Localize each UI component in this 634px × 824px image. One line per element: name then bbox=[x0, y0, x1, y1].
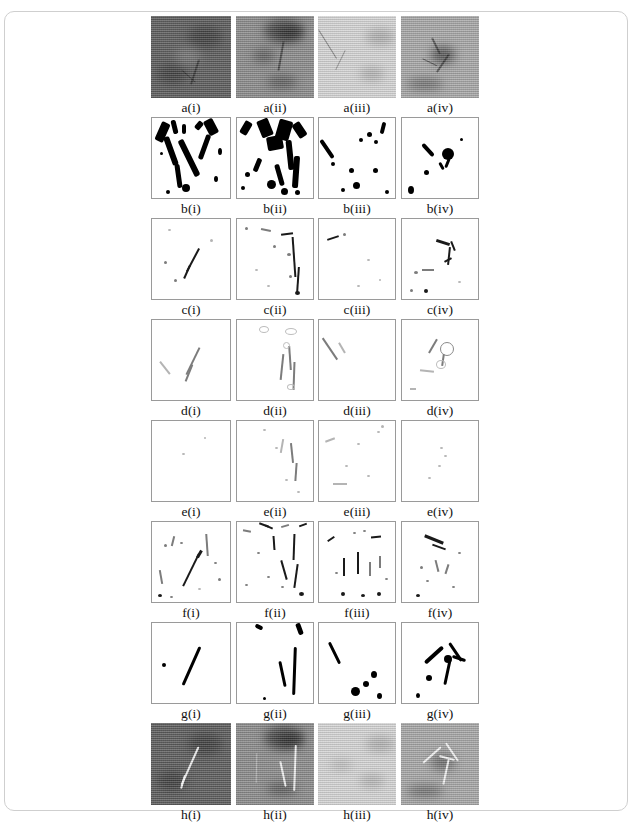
panel-label-d-i: d(i) bbox=[151, 401, 231, 420]
row-g-labels: g(i) g(ii) g(iii) g(iv) bbox=[151, 704, 479, 723]
figure-row-b: b(i) b(ii) b(iii) b(iv) bbox=[151, 117, 479, 218]
panel-label-e-iii: e(iii) bbox=[318, 502, 396, 521]
panel-label-g-ii: g(ii) bbox=[236, 704, 314, 723]
figure-row-g: g(i) g(ii) g(iii) g(iv) bbox=[151, 622, 479, 723]
panel-f-i[interactable] bbox=[151, 521, 231, 603]
panel-f-iii[interactable] bbox=[318, 521, 396, 603]
panel-label-f-iii: f(iii) bbox=[318, 603, 396, 622]
panel-label-e-iv: e(iv) bbox=[401, 502, 479, 521]
panel-g-i[interactable] bbox=[151, 622, 231, 704]
panel-label-f-ii: f(ii) bbox=[236, 603, 314, 622]
panel-f-iv[interactable] bbox=[401, 521, 479, 603]
panel-d-ii[interactable] bbox=[236, 319, 314, 401]
figure-panel-grid: a(i) a(ii) a(iii) a(iv) bbox=[151, 16, 479, 824]
panel-label-h-iv: h(iv) bbox=[401, 805, 479, 824]
panel-g-iv[interactable] bbox=[401, 622, 479, 704]
panel-label-d-iii: d(iii) bbox=[318, 401, 396, 420]
panel-f-ii[interactable] bbox=[236, 521, 314, 603]
row-h-labels: h(i) h(ii) h(iii) h(iv) bbox=[151, 805, 479, 824]
figure-row-h: h(i) h(ii) h(iii) h(iv) bbox=[151, 723, 479, 824]
panel-label-g-iii: g(iii) bbox=[318, 704, 396, 723]
panel-c-ii[interactable] bbox=[236, 218, 314, 300]
panel-g-ii[interactable] bbox=[236, 622, 314, 704]
panel-label-c-i: c(i) bbox=[151, 300, 231, 319]
panel-label-h-iii: h(iii) bbox=[318, 805, 396, 824]
panel-label-d-ii: d(ii) bbox=[236, 401, 314, 420]
row-c-images bbox=[151, 218, 479, 300]
figure-row-e: e(i) e(ii) e(iii) e(iv) bbox=[151, 420, 479, 521]
panel-d-iv[interactable] bbox=[401, 319, 479, 401]
figure-row-a: a(i) a(ii) a(iii) a(iv) bbox=[151, 16, 479, 117]
panel-b-iv[interactable] bbox=[401, 117, 479, 199]
panel-e-iii[interactable] bbox=[318, 420, 396, 502]
panel-label-f-i: f(i) bbox=[151, 603, 231, 622]
row-f-images bbox=[151, 521, 479, 603]
figure-row-c: c(i) c(ii) c(iii) c(iv) bbox=[151, 218, 479, 319]
row-a-labels: a(i) a(ii) a(iii) a(iv) bbox=[151, 98, 479, 117]
panel-a-iii[interactable] bbox=[318, 16, 396, 98]
panel-h-iii[interactable] bbox=[318, 723, 396, 805]
panel-c-iv[interactable] bbox=[401, 218, 479, 300]
panel-label-g-iv: g(iv) bbox=[401, 704, 479, 723]
row-b-images bbox=[151, 117, 479, 199]
row-e-images bbox=[151, 420, 479, 502]
panel-c-iii[interactable] bbox=[318, 218, 396, 300]
panel-b-iii[interactable] bbox=[318, 117, 396, 199]
panel-d-i[interactable] bbox=[151, 319, 231, 401]
panel-h-ii[interactable] bbox=[236, 723, 314, 805]
figure-row-d: d(i) d(ii) d(iii) d(iv) bbox=[151, 319, 479, 420]
row-d-labels: d(i) d(ii) d(iii) d(iv) bbox=[151, 401, 479, 420]
panel-label-f-iv: f(iv) bbox=[401, 603, 479, 622]
panel-a-iv[interactable] bbox=[401, 16, 479, 98]
row-f-labels: f(i) f(ii) f(iii) f(iv) bbox=[151, 603, 479, 622]
row-c-labels: c(i) c(ii) c(iii) c(iv) bbox=[151, 300, 479, 319]
panel-e-iv[interactable] bbox=[401, 420, 479, 502]
panel-label-g-i: g(i) bbox=[151, 704, 231, 723]
panel-c-i[interactable] bbox=[151, 218, 231, 300]
panel-label-b-ii: b(ii) bbox=[236, 199, 314, 218]
row-g-images bbox=[151, 622, 479, 704]
panel-label-c-iv: c(iv) bbox=[401, 300, 479, 319]
panel-label-a-i: a(i) bbox=[151, 98, 231, 117]
panel-e-ii[interactable] bbox=[236, 420, 314, 502]
row-e-labels: e(i) e(ii) e(iii) e(iv) bbox=[151, 502, 479, 521]
panel-label-a-ii: a(ii) bbox=[236, 98, 314, 117]
panel-b-i[interactable] bbox=[151, 117, 231, 199]
panel-a-ii[interactable] bbox=[236, 16, 314, 98]
panel-label-a-iii: a(iii) bbox=[318, 98, 396, 117]
panel-label-c-iii: c(iii) bbox=[318, 300, 396, 319]
figure-row-f: f(i) f(ii) f(iii) f(iv) bbox=[151, 521, 479, 622]
panel-label-b-iv: b(iv) bbox=[401, 199, 479, 218]
row-h-images bbox=[151, 723, 479, 805]
panel-h-iv[interactable] bbox=[401, 723, 479, 805]
row-d-images bbox=[151, 319, 479, 401]
panel-label-e-ii: e(ii) bbox=[236, 502, 314, 521]
panel-a-i[interactable] bbox=[151, 16, 231, 98]
panel-h-i[interactable] bbox=[151, 723, 231, 805]
row-b-labels: b(i) b(ii) b(iii) b(iv) bbox=[151, 199, 479, 218]
panel-label-b-iii: b(iii) bbox=[318, 199, 396, 218]
panel-label-e-i: e(i) bbox=[151, 502, 231, 521]
panel-e-i[interactable] bbox=[151, 420, 231, 502]
panel-label-d-iv: d(iv) bbox=[401, 401, 479, 420]
panel-d-iii[interactable] bbox=[318, 319, 396, 401]
panel-label-h-i: h(i) bbox=[151, 805, 231, 824]
panel-label-c-ii: c(ii) bbox=[236, 300, 314, 319]
panel-label-b-i: b(i) bbox=[151, 199, 231, 218]
panel-g-iii[interactable] bbox=[318, 622, 396, 704]
panel-label-a-iv: a(iv) bbox=[401, 98, 479, 117]
panel-label-h-ii: h(ii) bbox=[236, 805, 314, 824]
panel-b-ii[interactable] bbox=[236, 117, 314, 199]
row-a-images bbox=[151, 16, 479, 98]
